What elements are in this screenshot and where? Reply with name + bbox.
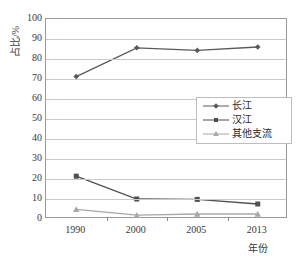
x-axis-title: 年份	[248, 240, 268, 255]
x-tickmark	[107, 217, 108, 221]
gridline	[46, 199, 286, 200]
legend-marker-icon	[203, 128, 229, 140]
x-axis-tick-labels: 1990200020052013	[45, 224, 287, 240]
data-point-marker	[255, 202, 260, 207]
legend-label: 其他支流	[229, 128, 272, 140]
gridline	[46, 39, 286, 40]
gridline	[46, 79, 286, 80]
y-tick-label: 50	[16, 113, 42, 123]
line-chart: 占比/% 0102030405060708090100 199020002005…	[0, 0, 298, 263]
data-point-marker	[255, 44, 261, 50]
legend-item[interactable]: 汉江	[197, 113, 291, 127]
data-point-marker	[74, 174, 79, 179]
x-tick-label: 2000	[126, 224, 146, 235]
gridline	[46, 179, 286, 180]
legend-label: 长江	[229, 100, 252, 112]
y-tick-label: 10	[16, 193, 42, 203]
y-tick-label: 20	[16, 173, 42, 183]
legend-label: 汉江	[229, 114, 252, 126]
y-tick-label: 30	[16, 153, 42, 163]
legend-item[interactable]: 长江	[197, 99, 291, 113]
gridline	[46, 59, 286, 60]
x-tickmark	[167, 217, 168, 221]
y-tick-label: 60	[16, 93, 42, 103]
x-tick-label: 1990	[65, 224, 85, 235]
gridline	[46, 159, 286, 160]
series-line	[76, 47, 258, 77]
legend-item[interactable]: 其他支流	[197, 127, 291, 141]
legend-marker-icon	[203, 114, 229, 126]
y-tick-label: 80	[16, 53, 42, 63]
y-tick-label: 100	[16, 13, 42, 23]
x-tick-label: 2013	[247, 224, 267, 235]
x-tick-label: 2005	[186, 224, 206, 235]
y-tick-label: 40	[16, 133, 42, 143]
chart-legend: 长江汉江其他支流	[196, 97, 292, 144]
data-point-marker	[194, 48, 200, 54]
y-axis-tick-labels: 0102030405060708090100	[16, 18, 42, 218]
data-point-marker	[134, 45, 140, 51]
series-line	[76, 209, 258, 215]
y-tick-label: 0	[16, 213, 42, 223]
y-tick-label: 70	[16, 73, 42, 83]
y-tick-label: 90	[16, 33, 42, 43]
x-tickmark	[228, 217, 229, 221]
legend-marker-icon	[203, 100, 229, 112]
